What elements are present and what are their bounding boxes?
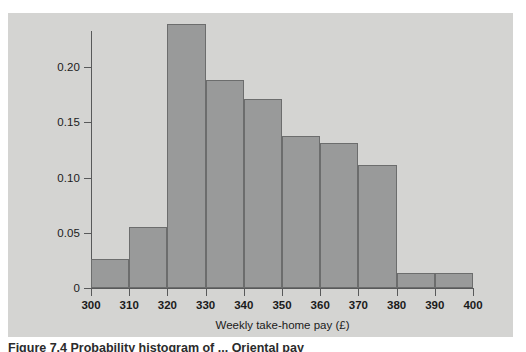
histogram-bar [91, 259, 129, 288]
histogram-bar [435, 273, 473, 288]
x-tick-label-9: 390 [425, 299, 444, 311]
x-tick-label-2: 320 [158, 299, 177, 311]
x-tick-mark-8 [397, 289, 398, 296]
chart-panel: 0 0.05 0.10 0.15 0.20 [8, 13, 513, 337]
x-tick-label-3: 330 [196, 299, 215, 311]
y-tick-label-4: 0.20 [57, 61, 80, 73]
histogram-bar [397, 273, 435, 288]
histogram-bar [358, 165, 396, 288]
x-tick-label-4: 340 [234, 299, 253, 311]
x-tick-label-6: 360 [311, 299, 330, 311]
x-tick-mark-10 [473, 289, 474, 296]
x-tick-mark-6 [320, 289, 321, 296]
y-axis-tick-label-group: 0 0.05 0.10 0.15 0.20 [8, 13, 80, 337]
histogram-bar [206, 80, 244, 288]
histogram-bar [282, 136, 320, 288]
x-tick-label-5: 350 [272, 299, 291, 311]
histogram-bar [244, 99, 282, 288]
y-tick-label-1: 0.05 [57, 227, 80, 239]
histogram-bar [129, 227, 167, 288]
figure-caption: Figure 7.4 Probability histogram of ... … [8, 341, 478, 352]
x-tick-mark-7 [358, 289, 359, 296]
y-tick-label-3: 0.15 [57, 116, 80, 128]
x-tick-mark-4 [244, 289, 245, 296]
x-tick-mark-1 [129, 289, 130, 296]
histogram-bar [167, 24, 205, 288]
x-tick-mark-5 [282, 289, 283, 296]
x-tick-mark-3 [206, 289, 207, 296]
x-tick-label-8: 380 [387, 299, 406, 311]
x-tick-label-7: 370 [349, 299, 368, 311]
x-tick-label-0: 300 [81, 299, 100, 311]
histogram-bar [320, 143, 358, 288]
x-tick-label-1: 310 [120, 299, 139, 311]
x-axis-title: Weekly take-home pay (£) [91, 319, 474, 331]
y-tick-label-0: 0 [74, 282, 81, 294]
x-tick-mark-0 [91, 289, 92, 296]
x-tick-mark-2 [167, 289, 168, 296]
x-tick-mark-9 [435, 289, 436, 296]
histogram-plot-area [91, 13, 473, 288]
x-tick-label-10: 400 [463, 299, 482, 311]
y-tick-label-2: 0.10 [57, 172, 80, 184]
figure-root: 0 0.05 0.10 0.15 0.20 [0, 0, 526, 352]
